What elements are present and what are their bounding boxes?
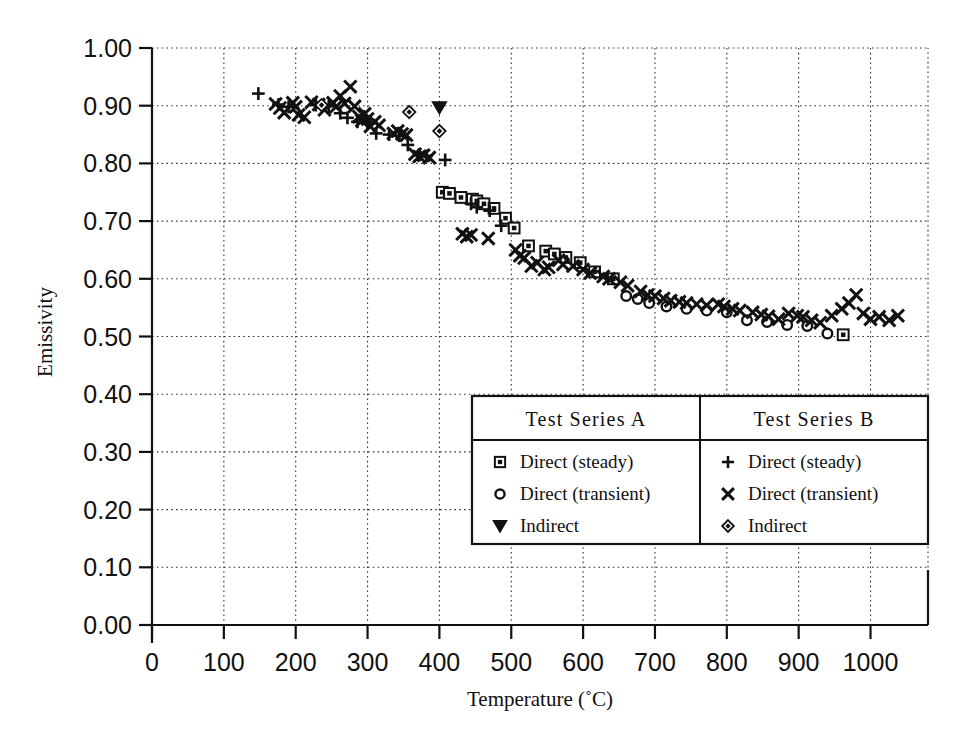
legend-label: Direct (transient) xyxy=(748,483,878,505)
marker-plus xyxy=(439,154,452,167)
y-axis-title: Emissivity xyxy=(33,287,57,377)
marker-cross xyxy=(344,80,356,92)
marker-square xyxy=(495,457,505,467)
axis-ticks xyxy=(139,48,871,639)
y-tick-label: 0.70 xyxy=(83,207,132,235)
series-4-cross xyxy=(269,80,904,328)
marker-cross xyxy=(850,289,862,301)
marker-diamond xyxy=(433,125,445,137)
y-tick-label: 1.00 xyxy=(83,34,132,62)
x-tick-label: 1000 xyxy=(843,648,899,676)
x-tick-label: 500 xyxy=(490,648,532,676)
y-tick-label: 0.80 xyxy=(83,149,132,177)
marker-square xyxy=(444,188,455,199)
marker-cross xyxy=(373,119,385,131)
marker-cross xyxy=(826,310,838,322)
x-tick-label: 300 xyxy=(347,648,389,676)
x-tick-labels: 01002003004005006007008009001000 xyxy=(145,648,898,676)
chart-canvas: 01002003004005006007008009001000 0.000.1… xyxy=(0,0,980,744)
x-tick-label: 200 xyxy=(275,648,317,676)
series-2-triangle-down xyxy=(433,102,446,113)
marker-square xyxy=(456,192,467,203)
marker-circle xyxy=(495,489,504,498)
y-tick-label: 0.60 xyxy=(83,265,132,293)
x-axis-title: Temperature (˚C) xyxy=(467,687,613,711)
marker-square xyxy=(509,223,520,234)
legend-header-a: Test Series A xyxy=(526,408,647,430)
x-tick-label: 100 xyxy=(203,648,245,676)
marker-square xyxy=(838,329,849,340)
y-tick-label: 0.20 xyxy=(83,496,132,524)
x-tick-label: 600 xyxy=(562,648,604,676)
marker-plus xyxy=(252,87,265,100)
data-points xyxy=(252,80,904,340)
legend-label: Direct (steady) xyxy=(520,451,633,473)
axis-frame xyxy=(152,48,928,643)
y-tick-label: 0.30 xyxy=(83,438,132,466)
marker-triangle-down xyxy=(433,102,446,113)
marker-cross xyxy=(542,261,554,273)
marker-cross xyxy=(482,232,494,244)
y-tick-label: 0.40 xyxy=(83,380,132,408)
emissivity-vs-temperature-figure: 01002003004005006007008009001000 0.000.1… xyxy=(0,0,980,744)
x-tick-label: 0 xyxy=(145,648,159,676)
x-tick-label: 900 xyxy=(778,648,820,676)
y-tick-label: 0.00 xyxy=(83,611,132,639)
legend-label: Direct (steady) xyxy=(748,451,861,473)
y-tick-label: 0.50 xyxy=(83,323,132,351)
legend-header-b: Test Series B xyxy=(754,408,875,430)
marker-diamond xyxy=(403,106,415,118)
y-tick-labels: 0.000.100.200.300.400.500.600.700.800.90… xyxy=(83,34,132,639)
marker-circle xyxy=(823,329,833,339)
x-tick-label: 800 xyxy=(706,648,748,676)
legend-label: Indirect xyxy=(520,515,580,536)
marker-circle xyxy=(621,291,631,301)
chart-legend: Test Series ADirect (steady)Direct (tran… xyxy=(472,396,928,544)
series-3-plus xyxy=(252,87,508,232)
x-tick-label: 700 xyxy=(634,648,676,676)
x-tick-label: 400 xyxy=(419,648,461,676)
y-tick-label: 0.10 xyxy=(83,553,132,581)
legend-label: Direct (transient) xyxy=(520,483,650,505)
y-tick-label: 0.90 xyxy=(83,92,132,120)
legend-label: Indirect xyxy=(748,515,808,536)
